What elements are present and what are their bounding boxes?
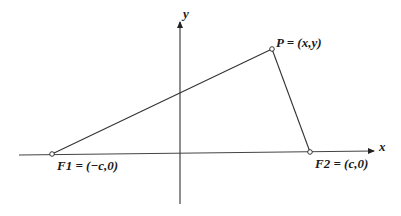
x-axis	[19, 151, 374, 155]
f1-label: F1 = (−c,0)	[56, 158, 118, 173]
f2-label: F2 = (c,0)	[314, 156, 368, 171]
segment-p-f2	[272, 49, 310, 152]
ellipse-foci-diagram: y x F1 = (−c,0) P = (x,y) F2 = (c,0)	[0, 0, 401, 216]
segment-f1-p	[52, 49, 272, 154]
point-f2	[308, 150, 313, 155]
point-p	[270, 47, 275, 52]
x-axis-label: x	[378, 139, 386, 154]
p-label: P = (x,y)	[276, 35, 322, 50]
point-f1	[50, 152, 55, 157]
y-axis-label: y	[181, 6, 189, 21]
